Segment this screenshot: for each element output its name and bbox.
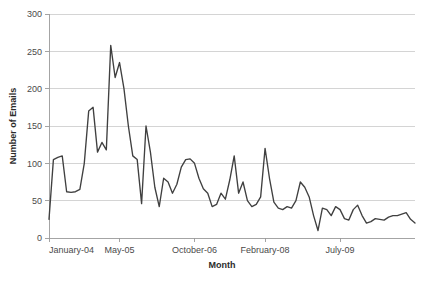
x-tick-label: January-04 [49,245,94,255]
x-tick-label: October-06 [172,245,217,255]
x-tick-marks [49,238,340,242]
y-tick-label: 50 [32,196,42,206]
chart-container: 050100150200250300 Number of Emails Janu… [0,0,423,283]
y-tick-label: 0 [37,233,42,243]
y-tick-marks [45,14,49,238]
x-tick-label: February-08 [241,245,290,255]
x-tick-labels: January-04May-05October-06February-08Jul… [49,245,355,255]
y-tick-labels: 050100150200250300 [27,9,42,243]
y-tick-label: 300 [27,9,42,19]
y-tick-label: 100 [27,159,42,169]
series-line-number-of-emails [49,45,415,230]
y-axis-group: 050100150200250300 Number of Emails [8,9,49,243]
x-axis-group: January-04May-05October-06February-08Jul… [49,238,415,270]
x-tick-label: May-05 [105,245,135,255]
gridlines-group [49,14,415,201]
y-tick-label: 250 [27,47,42,57]
y-tick-label: 150 [27,121,42,131]
y-axis-title: Number of Emails [8,88,18,165]
y-tick-label: 200 [27,84,42,94]
x-axis-title: Month [209,260,236,270]
plot-series-group [49,45,415,230]
x-tick-label: July-09 [326,245,355,255]
email-line-chart: 050100150200250300 Number of Emails Janu… [0,0,423,283]
